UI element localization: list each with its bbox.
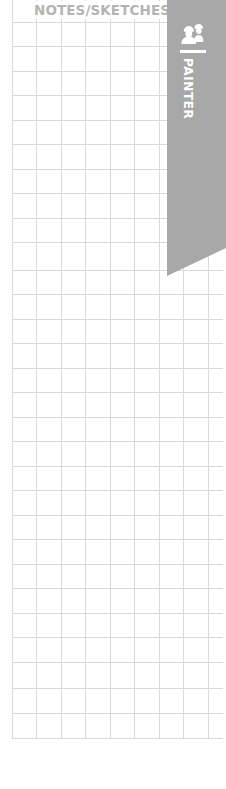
notes-sketches-page: NOTES/SKETCHES PAINTER [0,0,226,789]
page-title: NOTES/SKETCHES [33,1,171,19]
ribbon-divider [180,50,206,53]
role-ribbon-tab: PAINTER [167,0,226,276]
workers-hardhat-icon [180,22,204,44]
ribbon-role-label: PAINTER [181,58,195,119]
